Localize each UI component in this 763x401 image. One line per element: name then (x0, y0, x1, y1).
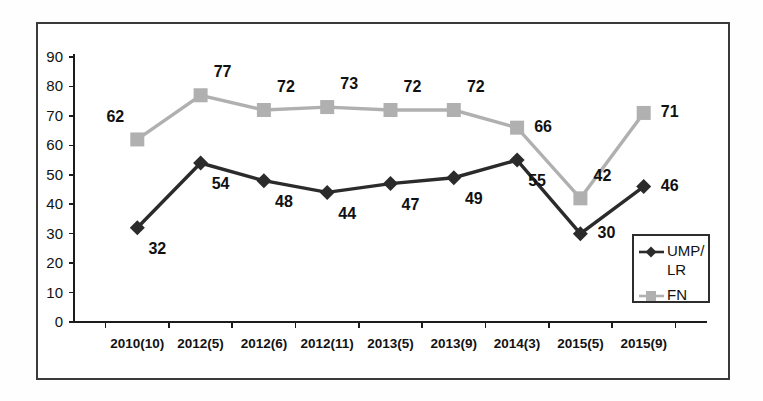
data-point-label: 62 (106, 108, 124, 125)
x-axis-tick-label: 2013(9) (431, 336, 478, 351)
data-point-marker (446, 170, 461, 185)
y-axis-tick-label: 0 (55, 313, 63, 330)
y-axis-tick-label: 80 (46, 77, 63, 94)
legend-label[interactable]: FN (667, 286, 687, 303)
data-point-label: 55 (528, 172, 546, 189)
data-point-label: 72 (277, 78, 295, 95)
data-point-label: 42 (594, 167, 612, 184)
data-point-marker (573, 191, 587, 205)
y-axis-tick-label: 70 (46, 107, 63, 124)
y-axis-tick-label: 60 (46, 136, 63, 153)
x-axis-tick-label: 2013(5) (367, 336, 414, 351)
x-axis-tick-label: 2012(11) (301, 336, 354, 351)
data-point-label: 77 (214, 63, 232, 80)
data-point-marker (383, 176, 398, 191)
data-point-label: 72 (404, 78, 422, 95)
data-point-marker (637, 106, 651, 120)
data-point-label: 44 (338, 205, 356, 222)
x-axis-tick-label: 2015(9) (620, 336, 667, 351)
data-point-label: 71 (661, 103, 679, 120)
y-axis-tick-label: 20 (46, 254, 63, 271)
data-point-label: 49 (465, 190, 483, 207)
data-point-marker (510, 121, 524, 135)
x-axis-tick-label: 2010(10) (110, 336, 164, 351)
legend-label[interactable]: LR (667, 261, 686, 278)
data-point-marker (130, 132, 144, 146)
data-point-label: 30 (598, 224, 616, 241)
x-axis-tick-label: 2012(5) (177, 336, 224, 351)
data-point-label: 47 (402, 196, 420, 213)
y-axis-tick-label: 50 (46, 166, 63, 183)
data-point-marker (320, 185, 335, 200)
chart-screenshot: 01020304050607080902010(10)2012(5)2012(6… (0, 0, 763, 401)
y-axis-tick-label: 40 (46, 195, 63, 212)
series-line-ump-lr (137, 160, 643, 234)
y-axis-tick-label: 10 (46, 284, 63, 301)
y-axis-tick-label: 90 (46, 48, 63, 65)
data-point-label: 54 (212, 175, 230, 192)
data-point-marker (256, 173, 271, 188)
data-point-marker (447, 103, 461, 117)
line-chart-plot: 01020304050607080902010(10)2012(5)2012(6… (38, 24, 728, 378)
legend-swatch-marker (646, 291, 656, 301)
data-point-label: 48 (275, 193, 293, 210)
data-point-marker (320, 100, 334, 114)
x-axis-tick-label: 2014(3) (494, 336, 541, 351)
data-point-label: 32 (148, 240, 166, 257)
data-point-marker (257, 103, 271, 117)
data-point-label: 66 (534, 118, 552, 135)
data-point-label: 72 (467, 78, 485, 95)
y-axis-tick-label: 30 (46, 225, 63, 242)
data-point-label: 46 (661, 177, 679, 194)
data-point-marker (194, 88, 208, 102)
x-axis-tick-label: 2015(5) (557, 336, 604, 351)
chart-frame: 01020304050607080902010(10)2012(5)2012(6… (36, 22, 730, 380)
legend-label[interactable]: UMP/ (667, 242, 705, 259)
x-axis-tick-label: 2012(6) (241, 336, 288, 351)
data-point-marker (384, 103, 398, 117)
data-point-label: 73 (340, 75, 358, 92)
